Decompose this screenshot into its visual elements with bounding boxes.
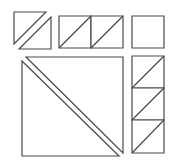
big-split-square	[22, 57, 123, 156]
top-right-square	[132, 16, 164, 48]
right-column	[132, 56, 164, 153]
quilt-diagram	[0, 0, 172, 164]
top-middle-rectangle	[59, 16, 123, 48]
top-left-split-square	[14, 12, 51, 49]
